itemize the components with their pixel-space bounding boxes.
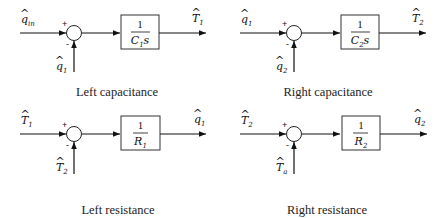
output-label: T1^ <box>191 6 203 27</box>
hat-accent: ^ <box>55 54 64 67</box>
tf-numerator: 1 <box>138 119 144 131</box>
tf-numerator: 1 <box>137 18 143 30</box>
hat-accent: ^ <box>191 6 200 19</box>
tf-numerator: 1 <box>358 119 364 131</box>
plus-sign: + <box>282 120 287 130</box>
hat-accent: ^ <box>275 54 284 67</box>
hat-accent: ^ <box>411 6 420 19</box>
caption: Left resistance <box>81 203 155 217</box>
feedback-label: Ta^ <box>275 155 287 176</box>
hat-accent: ^ <box>240 7 249 20</box>
hat-accent: ^ <box>240 108 249 121</box>
plus-sign: + <box>62 19 67 29</box>
minus-sign: - <box>286 140 289 150</box>
minus-sign: - <box>66 140 69 150</box>
hat-accent: ^ <box>55 155 64 168</box>
feedback-label: q1^ <box>55 54 68 75</box>
block-right-capacitance: + - q1^ q2^ T2^ 1 C2s Right capacitance <box>240 6 426 99</box>
minus-sign: - <box>286 39 289 49</box>
feedback-label: q2^ <box>275 54 288 75</box>
hat-accent: ^ <box>413 107 422 120</box>
input-label: q1^ <box>240 7 253 28</box>
block-right-resistance: + - T2^ Ta^ q2^ 1 R2 Right resistance <box>240 107 427 217</box>
output-label: q2^ <box>413 107 426 128</box>
hat-accent: ^ <box>275 155 284 168</box>
hat-accent: ^ <box>20 108 29 121</box>
input-label: qin^ <box>20 7 35 28</box>
plus-sign: + <box>282 19 287 29</box>
block-left-capacitance: + - qin^ q1^ T1^ 1 C1s Left capacitance <box>20 6 206 99</box>
tf-numerator: 1 <box>357 18 363 30</box>
feedback-label: T2^ <box>55 155 68 176</box>
caption: Right resistance <box>287 203 368 217</box>
caption: Left capacitance <box>76 85 159 99</box>
hat-accent: ^ <box>193 107 202 120</box>
output-label: T2^ <box>411 6 424 27</box>
input-label: T2^ <box>240 108 253 129</box>
block-left-resistance: + - T1^ T2^ q1^ 1 R1 Left resistance <box>20 107 206 217</box>
block-diagram: + - qin^ q1^ T1^ 1 C1s Left capacitance … <box>0 0 441 218</box>
plus-sign: + <box>62 120 67 130</box>
output-label: q1^ <box>193 107 206 128</box>
input-label: T1^ <box>20 108 32 129</box>
hat-accent: ^ <box>20 7 29 20</box>
caption: Right capacitance <box>283 85 373 99</box>
minus-sign: - <box>66 39 69 49</box>
